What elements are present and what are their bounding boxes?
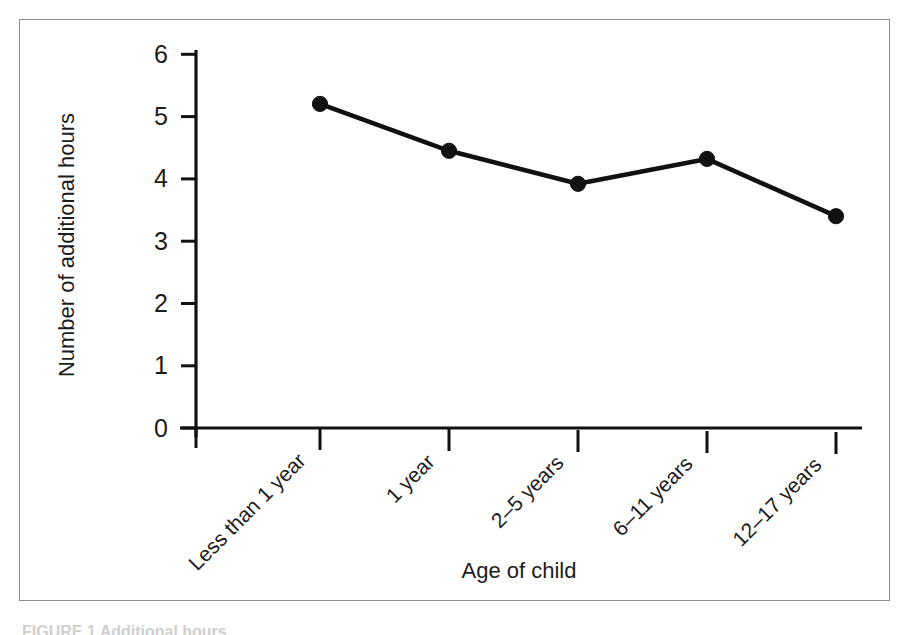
y-tick-marks: [181, 54, 196, 428]
y-axis-title: Number of additional hours: [54, 113, 79, 377]
data-point-less-than-1-year: [312, 96, 327, 111]
data-point-2-5-years: [570, 176, 585, 191]
y-tick-label-6: 6: [154, 40, 168, 68]
y-tick-label-1: 1: [154, 351, 168, 379]
data-point-6-11-years: [699, 151, 714, 166]
y-tick-label-5: 5: [154, 102, 168, 130]
x-tick-label-0: Less than 1 year: [184, 449, 310, 575]
x-tick-label-2: 2–5 years: [486, 451, 567, 532]
x-tick-label-1: 1 year: [381, 450, 439, 508]
x-tick-label-3: 6–11 years: [608, 452, 697, 541]
y-tick-label-0: 0: [154, 414, 168, 442]
y-tick-label-4: 4: [154, 164, 168, 192]
data-point-12-17-years: [828, 209, 843, 224]
line-chart: 6 5 4 3 2 1 0 Less than 1 year 1 year 2–…: [0, 0, 906, 635]
x-tick-label-4: 12–17 years: [728, 453, 826, 551]
y-tick-label-2: 2: [154, 289, 168, 317]
figure-caption-partial: FIGURE 1 Additional hours: [22, 624, 452, 635]
y-tick-label-3: 3: [154, 227, 168, 255]
series-line-additional-hours: [320, 104, 836, 216]
x-axis-title: Age of child: [462, 558, 577, 583]
series-markers: [312, 96, 843, 223]
data-point-1-year: [441, 143, 456, 158]
